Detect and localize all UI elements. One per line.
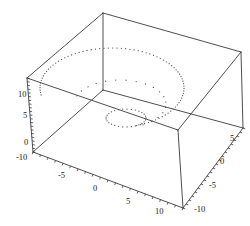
spiral-point	[144, 123, 145, 124]
spiral-point	[180, 100, 181, 101]
spiral-point	[142, 51, 143, 52]
spiral-point	[42, 78, 43, 79]
spiral-point	[40, 82, 41, 83]
spiral-point	[145, 117, 146, 118]
spiral-point	[108, 122, 109, 123]
spiral-point	[115, 79, 116, 80]
spiral-point	[52, 64, 53, 65]
axis-tick-label: 0	[24, 137, 28, 147]
spiral-point	[145, 83, 146, 84]
spiral-point	[111, 124, 112, 125]
spiral-point	[144, 114, 145, 115]
spiral-point	[140, 124, 141, 125]
spiral-point	[39, 87, 40, 88]
spiral-point	[131, 126, 132, 127]
spiral-point	[95, 48, 96, 49]
spiral-point	[177, 71, 178, 72]
spiral-point	[106, 118, 107, 119]
spiral-point	[182, 95, 183, 96]
spiral-point	[145, 115, 146, 116]
spiral-point	[50, 66, 51, 67]
spiral-point	[40, 94, 41, 95]
spiral-point	[114, 110, 115, 111]
spiral-point	[165, 101, 166, 102]
axis-tick-label: 5	[23, 110, 27, 120]
spiral-point	[167, 112, 168, 113]
spiral-point	[125, 48, 126, 49]
spiral-point	[138, 50, 139, 51]
spiral-point	[122, 109, 123, 110]
spiral-point	[39, 90, 40, 91]
spiral-point	[181, 97, 182, 98]
spiral-point	[166, 61, 167, 62]
spiral-point	[160, 58, 161, 59]
axis-tick-label: 10	[18, 89, 27, 99]
spiral-point	[175, 106, 176, 107]
spiral-point	[67, 56, 68, 57]
spiral-point	[144, 121, 145, 122]
axis-tick-label: 5	[230, 133, 234, 143]
spiral-point	[149, 53, 150, 54]
spiral-point	[48, 69, 49, 70]
spiral-point	[129, 49, 130, 50]
spiral-point	[142, 124, 143, 125]
spiral-point	[177, 104, 178, 105]
spiral-point	[111, 111, 112, 112]
spiral-point	[157, 117, 158, 118]
spiral-point	[106, 120, 107, 121]
spiral-point	[155, 119, 156, 120]
spiral-point	[162, 112, 163, 113]
spiral-point	[169, 63, 170, 64]
spiral-point	[183, 83, 184, 84]
spiral-point	[108, 113, 109, 114]
plot-3d-container: 1050-10-50510-10-505	[0, 0, 250, 226]
axis-tick-label: -5	[58, 170, 65, 180]
spiral-point	[40, 92, 41, 93]
spiral-point	[131, 109, 132, 110]
spiral-point	[122, 126, 123, 127]
spiral-point	[136, 125, 137, 126]
spiral-point	[138, 111, 139, 112]
spiral-point	[151, 121, 152, 122]
spiral-point	[153, 55, 154, 56]
spiral-point	[145, 119, 146, 120]
spiral-point	[78, 52, 79, 53]
spiral-point	[118, 109, 119, 110]
spiral-point	[173, 109, 174, 110]
spiral-point	[135, 109, 136, 110]
spiral-point	[145, 52, 146, 53]
axis-tick-label: 0	[220, 156, 224, 166]
spiral-point	[135, 125, 136, 126]
spiral-point	[179, 74, 180, 75]
spiral-point	[61, 59, 62, 60]
spiral-point	[183, 90, 184, 91]
spiral-point	[173, 67, 174, 68]
axis-tick-label: -10	[16, 152, 27, 162]
spiral-point	[126, 80, 127, 81]
axis-tick-label: -5	[209, 180, 216, 190]
spiral-point	[180, 76, 181, 77]
spiral-point	[82, 51, 83, 52]
spiral-point	[64, 57, 65, 58]
spiral-point	[91, 49, 92, 50]
spiral-point	[114, 125, 115, 126]
spiral-point	[126, 126, 127, 127]
axis-tick-label: -10	[194, 204, 205, 214]
spiral-point	[175, 69, 176, 70]
spiral-point	[41, 80, 42, 81]
spiral-point	[105, 81, 106, 82]
spiral-point	[170, 111, 171, 112]
spiral-point	[159, 91, 160, 92]
spiral-point	[103, 48, 104, 49]
spiral-point	[183, 85, 184, 86]
spiral-point	[165, 107, 166, 108]
spiral-point	[112, 47, 113, 48]
spiral-point	[183, 93, 184, 94]
spiral-point	[116, 47, 117, 48]
spiral-point	[148, 122, 149, 123]
spiral-point	[99, 48, 100, 49]
spiral-point	[106, 116, 107, 117]
spiral-point	[141, 123, 142, 124]
spiral-point	[171, 65, 172, 66]
spiral-point	[162, 116, 163, 117]
